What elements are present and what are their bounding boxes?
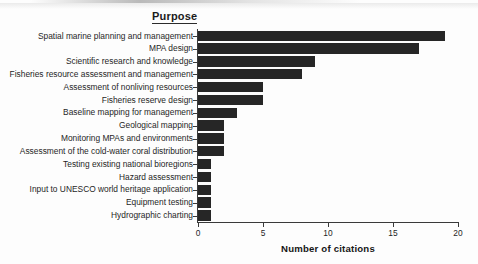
- bar-row: Testing existing national bioregions: [0, 158, 478, 171]
- y-axis-tick: [193, 190, 197, 191]
- bar-category-label: Monitoring MPAs and environments: [61, 132, 193, 145]
- bar: [198, 146, 224, 156]
- bar-category-label: MPA design: [149, 42, 193, 55]
- y-axis-tick: [193, 203, 197, 204]
- y-axis-tick: [193, 113, 197, 114]
- y-axis-tick: [193, 139, 197, 140]
- x-axis-tick-label: 15: [388, 228, 397, 238]
- x-axis-tick-label: 0: [196, 228, 201, 238]
- bar-row: Equipment testing: [0, 196, 478, 209]
- y-axis-tick: [193, 87, 197, 88]
- bar-row: Input to UNESCO world heritage applicati…: [0, 183, 478, 196]
- y-axis-tick: [193, 151, 197, 152]
- x-axis-tick: [458, 223, 459, 227]
- bar-row: Baseline mapping for management: [0, 106, 478, 119]
- bar-category-label: Fisheries reserve design: [102, 94, 193, 107]
- bar: [198, 108, 237, 118]
- bar-category-label: Hydrographic charting: [111, 209, 193, 222]
- bar-row: Scientific research and knowledge: [0, 55, 478, 68]
- bar-category-label: Baseline mapping for management: [63, 106, 193, 119]
- y-axis-tick: [193, 36, 197, 37]
- bar: [198, 56, 315, 66]
- y-axis-tick: [193, 74, 197, 75]
- chart-figure: Purpose Spatial marine planning and mana…: [0, 0, 478, 264]
- bar: [198, 31, 445, 41]
- bar: [198, 69, 302, 79]
- bar-category-label: Geological mapping: [119, 119, 193, 132]
- bar-row: Assessment of nonliving resources: [0, 81, 478, 94]
- bar: [198, 43, 419, 53]
- bar: [198, 159, 211, 169]
- bar-category-label: Assessment of the cold-water coral distr…: [20, 145, 193, 158]
- y-axis-tick: [193, 62, 197, 63]
- bar-category-label: Assessment of nonliving resources: [64, 81, 193, 94]
- bar-category-label: Equipment testing: [126, 196, 193, 209]
- bar-category-label: Spatial marine planning and management: [38, 30, 193, 43]
- x-axis-label: Number of citations: [197, 243, 459, 254]
- bar-row: Hydrographic charting: [0, 209, 478, 222]
- x-axis-tick: [328, 223, 329, 227]
- bar-row: Spatial marine planning and management: [0, 30, 478, 43]
- x-axis-tick: [263, 223, 264, 227]
- bar-category-label: Fisheries resource assessment and manage…: [10, 68, 193, 81]
- x-axis-tick-label: 10: [323, 228, 332, 238]
- bar: [198, 82, 263, 92]
- bar: [198, 133, 224, 143]
- y-axis-tick: [193, 49, 197, 50]
- bar: [198, 95, 263, 105]
- bar: [198, 172, 211, 182]
- y-axis-tick: [193, 126, 197, 127]
- bar-category-label: Hazard assessment: [119, 171, 193, 184]
- bar-category-label: Input to UNESCO world heritage applicati…: [30, 183, 193, 196]
- bar-category-label: Testing existing national bioregions: [63, 158, 193, 171]
- x-axis-tick: [198, 223, 199, 227]
- bar-row: MPA design: [0, 42, 478, 55]
- bar: [198, 197, 211, 207]
- bar-row: Fisheries reserve design: [0, 94, 478, 107]
- bar-row: Assessment of the cold-water coral distr…: [0, 145, 478, 158]
- x-axis-tick: [393, 223, 394, 227]
- bar: [198, 185, 211, 195]
- bar-row: Monitoring MPAs and environments: [0, 132, 478, 145]
- y-axis-tick: [193, 164, 197, 165]
- bar-category-label: Scientific research and knowledge: [66, 55, 193, 68]
- y-axis-tick: [193, 100, 197, 101]
- bar-row: Fisheries resource assessment and manage…: [0, 68, 478, 81]
- bar-row: Geological mapping: [0, 119, 478, 132]
- y-axis-tick: [193, 216, 197, 217]
- y-axis-tick: [193, 177, 197, 178]
- x-axis-tick-label: 5: [261, 228, 266, 238]
- plot-area: Spatial marine planning and managementMP…: [0, 0, 478, 264]
- bar-row: Hazard assessment: [0, 171, 478, 184]
- x-axis-tick-label: 20: [453, 228, 462, 238]
- bar: [198, 210, 211, 220]
- bar: [198, 120, 224, 130]
